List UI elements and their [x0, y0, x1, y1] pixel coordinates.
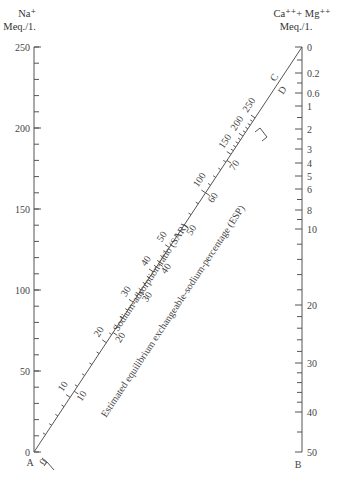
- esp-tick-label: 60: [205, 190, 220, 204]
- left-axis-title-unit: Meq./1.: [3, 21, 36, 32]
- sar-minor-tick: [75, 385, 78, 387]
- right-axis-tick-label: 0.6: [307, 88, 320, 99]
- sar-minor-tick: [223, 160, 226, 162]
- left-axis-letter-a: A: [26, 457, 34, 468]
- right-axis-tick-label: 2: [307, 124, 312, 135]
- sar-tick-label: 200: [228, 114, 245, 133]
- esp-tick-label: 10: [74, 389, 89, 403]
- right-axis-title-ca-mg: Ca⁺⁺+ Mg⁺⁺: [274, 8, 331, 19]
- right-axis-tick-label: 5: [307, 171, 312, 182]
- sar-nomogram: Na⁺ Meq./1. 250200150100500 A Ca⁺⁺+ Mg⁺⁺…: [0, 0, 343, 482]
- sar-major-tick: [201, 190, 205, 193]
- left-axis-tick-label: 0: [25, 447, 30, 458]
- right-axis-tick-label: 8: [307, 205, 312, 216]
- sar-minor-tick: [97, 352, 100, 354]
- sar-major-tick: [227, 152, 231, 155]
- diagonal-letter-d: D: [275, 84, 288, 96]
- sar-minor-tick: [236, 142, 239, 144]
- left-axis-tick-label: 200: [15, 123, 30, 134]
- sar-tick-label: 20: [91, 324, 106, 338]
- left-axis-tick-label: 250: [15, 42, 30, 53]
- left-axis-na: Na⁺ Meq./1. 250200150100500 A: [3, 8, 41, 468]
- sar-minor-tick: [43, 433, 46, 435]
- right-axis-tick-label: 40: [307, 407, 317, 418]
- left-axis-ticks: 250200150100500: [15, 42, 41, 458]
- left-axis-tick-label: 150: [15, 204, 30, 215]
- left-axis-tick-label: 100: [15, 285, 30, 296]
- sar-minor-tick: [218, 168, 221, 170]
- right-axis-tick-label: 6: [307, 184, 312, 195]
- sar-minor-tick: [189, 213, 192, 215]
- sar-tick-label: 10: [55, 379, 70, 393]
- sar-minor-tick: [248, 124, 251, 126]
- sar-minor-tick: [243, 131, 246, 133]
- sar-major-tick: [102, 340, 106, 343]
- sar-major-tick: [251, 115, 255, 118]
- sar-minor-tick: [231, 149, 234, 151]
- sar-minor-tick: [82, 374, 85, 376]
- sar-major-tick: [66, 395, 70, 398]
- sar-tick-label: 100: [191, 170, 208, 189]
- right-axis-tick-label: 0.2: [307, 68, 320, 79]
- esp-70-bracket: [255, 128, 267, 141]
- right-axis-tick-label: 30: [307, 358, 317, 369]
- sar-minor-tick: [233, 145, 236, 147]
- sar-minor-tick: [213, 176, 216, 178]
- sar-minor-tick: [109, 333, 112, 335]
- sar-major-tick: [239, 133, 243, 136]
- right-axis-tick-label: 1: [307, 101, 312, 112]
- right-axis-tick-label: 3: [307, 144, 312, 155]
- sar-minor-tick: [208, 183, 211, 185]
- sar-tick-label: 250: [240, 95, 257, 114]
- sar-minor-tick: [250, 120, 253, 122]
- diagonal-letter-c: C: [267, 71, 280, 83]
- right-axis-tick-label: 20: [307, 300, 317, 311]
- right-axis-tick-label: 10: [307, 224, 317, 235]
- right-axis-title-unit: Meq./1.: [280, 21, 313, 32]
- left-axis-title-na: Na⁺: [18, 8, 36, 19]
- right-axis-tick-label: 0: [307, 42, 312, 53]
- right-axis-ticks: 00.20.612345681020304050: [295, 42, 320, 458]
- sar-minor-tick: [89, 363, 92, 365]
- sar-minor-tick: [55, 414, 58, 416]
- sar-scale-title: Sodium-adsorption-ratio (SAR): [110, 221, 190, 333]
- sar-tick-label: 150: [216, 132, 233, 151]
- sar-minor-tick: [196, 202, 199, 204]
- sar-minor-tick: [49, 424, 52, 426]
- sar-minor-tick: [238, 138, 241, 140]
- esp-tick-label: 70: [227, 158, 242, 172]
- diagonal-sar-esp-scale: 1020304050100150200250010203040506070 C …: [34, 47, 302, 470]
- right-axis-tick-label: 4: [307, 158, 312, 169]
- sar-minor-tick: [245, 127, 248, 129]
- left-axis-tick-label: 50: [20, 366, 30, 377]
- right-axis-tick-label: 50: [307, 447, 317, 458]
- sar-minor-tick: [62, 405, 65, 407]
- right-axis-letter-b: B: [295, 459, 302, 470]
